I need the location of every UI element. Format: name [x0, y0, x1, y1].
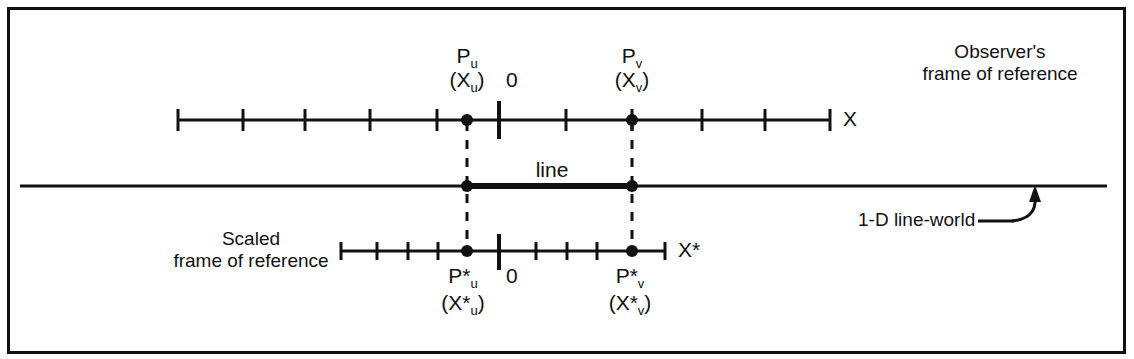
- lower-point-v-coord-close: ): [644, 291, 651, 314]
- upper-point-u-coord-close: ): [478, 68, 485, 91]
- lower-point-u-coord-open: (X*: [441, 291, 470, 314]
- upper-point-u-coord-open: (X: [449, 68, 470, 91]
- scaled-frame-line1: Scaled: [173, 228, 328, 250]
- lower-point-v-coord-open: (X*: [609, 291, 638, 314]
- upper-point-v-name: P: [622, 44, 636, 67]
- upper-point-v-coord-label: (Xv): [615, 68, 650, 96]
- lower-point-v-coord-label: (X*v): [609, 291, 652, 319]
- upper-axis-origin-label: 0: [506, 68, 518, 93]
- lower-axis-point-u-dot: [461, 245, 473, 257]
- lower-point-v-label: P*v: [616, 264, 645, 292]
- line-world-arrowhead-icon: [1029, 185, 1041, 202]
- observer-frame-label: Observer's frame of reference: [922, 41, 1077, 86]
- lower-point-u-coord-label: (X*u): [441, 291, 484, 319]
- upper-point-v-coord-close: ): [642, 68, 649, 91]
- lower-point-v-name: P*: [616, 264, 638, 287]
- upper-point-u-name: P: [456, 44, 470, 67]
- upper-axis-name-label: X: [843, 107, 857, 132]
- upper-axis-point-u-dot: [461, 114, 473, 126]
- lower-point-u-subscript: u: [470, 276, 477, 291]
- line-world-label: 1-D line-world: [858, 209, 975, 231]
- line-segment-label: line: [536, 158, 569, 183]
- lower-point-u-label: P*u: [448, 264, 477, 292]
- observer-frame-line1: Observer's: [922, 41, 1077, 63]
- observer-frame-line2: frame of reference: [922, 63, 1077, 85]
- lower-point-u-coord-close: ): [478, 291, 485, 314]
- lower-axis-name-label: X*: [678, 238, 700, 263]
- scaled-frame-label: Scaled frame of reference: [173, 228, 328, 273]
- figure-container: Observer's frame of reference Pu (Xu) 0 …: [0, 0, 1134, 359]
- upper-axis: [178, 101, 830, 139]
- lower-point-v-subscript: v: [638, 276, 645, 291]
- upper-point-v-coord-open: (X: [615, 68, 636, 91]
- scaled-frame-line2: frame of reference: [173, 250, 328, 272]
- lower-axis-point-v-dot: [626, 245, 638, 257]
- upper-point-u-coord-label: (Xu): [449, 68, 484, 96]
- upper-axis-point-v-dot: [626, 114, 638, 126]
- lower-point-u-name: P*: [448, 264, 470, 287]
- lower-axis-origin-label: 0: [506, 264, 518, 289]
